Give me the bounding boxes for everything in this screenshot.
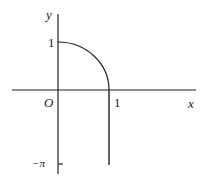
origin-label: O	[44, 96, 53, 109]
y-tick-neg-pi: −π	[32, 158, 45, 169]
y-tick-1: 1	[48, 36, 55, 49]
plot-area	[0, 0, 202, 178]
y-axis-label: y	[46, 8, 52, 21]
x-tick-1: 1	[114, 96, 121, 109]
arc-curve	[58, 42, 109, 90]
chart: y 1 O 1 x −π	[0, 0, 202, 178]
x-axis-label: x	[188, 97, 194, 110]
